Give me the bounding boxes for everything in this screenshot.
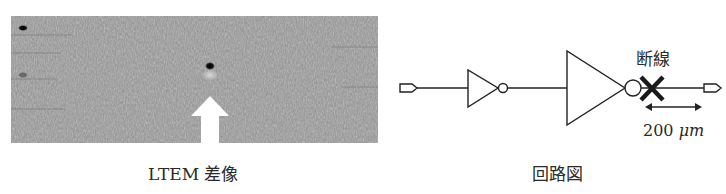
output-port-icon xyxy=(704,84,721,92)
large-inverter-icon xyxy=(567,51,625,125)
break-label: 断線 xyxy=(636,45,670,70)
circuit-caption: 回路図 xyxy=(532,160,583,185)
length-unit: μm xyxy=(679,121,705,140)
length-label: 200 μm xyxy=(643,121,704,140)
defect-spot xyxy=(205,62,215,70)
dark-mark xyxy=(18,25,28,31)
ltem-caption: LTEM 差像 xyxy=(148,160,238,185)
input-port-icon xyxy=(400,84,417,92)
small-inverter-icon xyxy=(468,70,498,107)
length-value: 200 xyxy=(643,121,679,140)
ltem-image-canvas xyxy=(11,16,378,143)
ltem-image xyxy=(11,16,378,143)
